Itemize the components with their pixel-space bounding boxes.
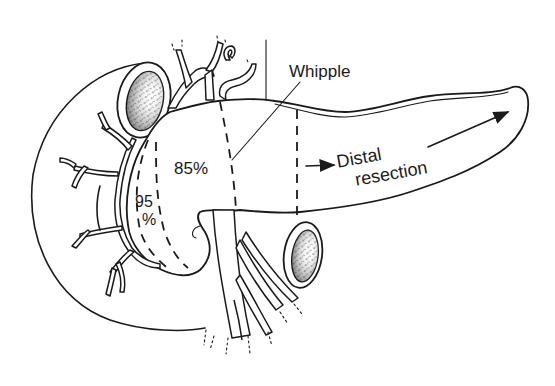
superior-mesenteric-vessels [204, 210, 302, 354]
celiac-vessels [168, 36, 266, 108]
duodenum-lumen-lower [280, 220, 327, 291]
label-95-line1: 95 [135, 193, 153, 210]
label-whipple: Whipple [289, 62, 350, 81]
pancreatic-resection-diagram: Whipple 85% 95 % Distal resection [0, 0, 555, 386]
pancreas-outline [127, 87, 528, 276]
label-85-percent: 85% [174, 159, 208, 178]
distal-arrow-short [306, 165, 334, 166]
label-95-line2: % [142, 211, 156, 228]
